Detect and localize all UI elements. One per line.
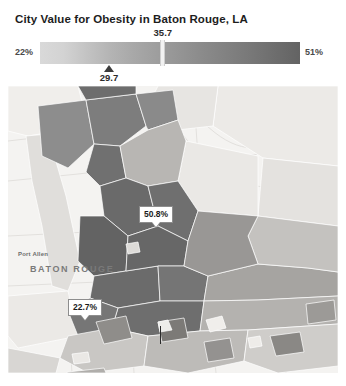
legend-color-ramp: [40, 42, 300, 64]
legend-reference-tick: [160, 40, 165, 66]
legend-max-label: 51%: [305, 47, 323, 57]
callout-high-value[interactable]: 50.8%: [139, 206, 173, 223]
legend-city-marker-icon: [104, 65, 114, 72]
legend-city-value-label: 29.7: [100, 72, 119, 83]
callout-low-value[interactable]: 22.7%: [68, 299, 102, 316]
legend: 22% 51% 35.7 29.7: [0, 33, 346, 79]
page-title: City Value for Obesity in Baton Rouge, L…: [15, 13, 248, 25]
map-canvas: [8, 86, 338, 373]
map-regions: [8, 86, 338, 373]
legend-min-label: 22%: [15, 47, 33, 57]
leader-line: [160, 326, 161, 344]
choropleth-map[interactable]: Port Allen BATON ROUGE 50.8% 22.7%: [8, 86, 338, 373]
visualization-root: City Value for Obesity in Baton Rouge, L…: [0, 0, 346, 386]
legend-reference-label: 35.7: [154, 27, 173, 38]
